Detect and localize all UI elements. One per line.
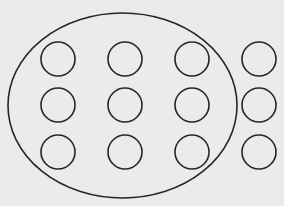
diagram-canvas (0, 0, 284, 206)
grouping-diagram (0, 0, 284, 206)
